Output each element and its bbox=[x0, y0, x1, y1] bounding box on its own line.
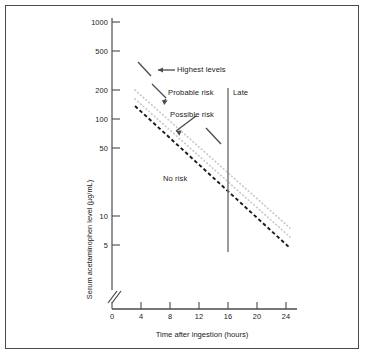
axis-break-icon bbox=[108, 291, 121, 303]
annotation-late: Late bbox=[233, 88, 248, 97]
x-tick-label-20: 20 bbox=[247, 312, 267, 321]
y-tick-label-200: 200 bbox=[84, 86, 108, 95]
leader-probable-risk bbox=[152, 84, 168, 105]
nomogram-figure: 1000 500 200 100 50 10 5 0 4 8 12 16 20 … bbox=[0, 0, 365, 355]
x-tick-label-4: 4 bbox=[131, 312, 151, 321]
x-axis-ticks bbox=[112, 302, 286, 309]
y-axis-title-wrap: Serum acetaminophen level (µg/mL) bbox=[58, 85, 72, 225]
series-line-possible-risk bbox=[135, 99, 290, 237]
y-tick-label-500: 500 bbox=[84, 47, 108, 56]
y-axis-title: Serum acetaminophen level (µg/mL) bbox=[85, 165, 94, 315]
y-tick-label-50: 50 bbox=[84, 144, 108, 153]
series-line-no-risk bbox=[135, 106, 290, 248]
y-tick-label-100: 100 bbox=[84, 115, 108, 124]
leader-highest-levels bbox=[138, 62, 175, 76]
annotation-highest-levels: Highest levels bbox=[177, 65, 226, 74]
annotation-no-risk: No risk bbox=[163, 174, 187, 183]
x-tick-label-0: 0 bbox=[102, 312, 122, 321]
x-tick-label-12: 12 bbox=[189, 312, 209, 321]
annotation-probable-risk: Probable risk bbox=[168, 88, 214, 97]
x-axis-title: Time after ingestion (hours) bbox=[112, 330, 292, 339]
y-tick-label-1000: 1000 bbox=[84, 18, 108, 27]
y-axis-ticks bbox=[112, 22, 120, 245]
annotation-possible-risk: Possible risk bbox=[170, 110, 214, 119]
x-tick-label-8: 8 bbox=[160, 312, 180, 321]
x-tick-label-24: 24 bbox=[276, 312, 296, 321]
leader-possible-risk-stub bbox=[206, 128, 221, 144]
x-tick-label-16: 16 bbox=[218, 312, 238, 321]
